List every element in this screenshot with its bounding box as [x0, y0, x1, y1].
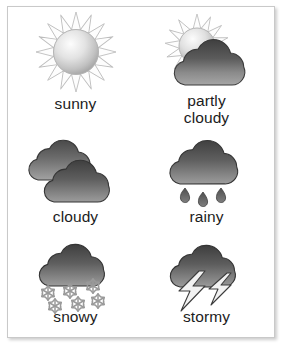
partly-cloudy-icon-stage [147, 11, 267, 93]
sun-behind-cloud-icon [152, 11, 262, 99]
cloud-snow-icon [22, 241, 130, 315]
cloudy-icon-stage [16, 136, 136, 208]
sun-disc-icon [53, 30, 98, 75]
weather-item-sunny[interactable]: sunny [10, 11, 141, 136]
double-cloud-icon [18, 136, 134, 208]
snowflake-1-icon [41, 286, 53, 300]
weather-label-sunny: sunny [55, 96, 97, 113]
snowflake-6-icon [91, 294, 103, 308]
weather-chart-card: sunny [7, 6, 275, 338]
weather-item-partly-cloudy[interactable]: partly cloudy [141, 11, 272, 136]
weather-icon-grid: sunny [8, 7, 274, 337]
cloud-rain-icon [155, 136, 259, 212]
snowflake-4-icon [48, 299, 60, 313]
weather-label-cloudy: cloudy [53, 209, 98, 226]
raindrop-3-icon [216, 188, 225, 203]
weather-item-rainy[interactable]: rainy [141, 136, 272, 241]
weather-item-stormy[interactable]: stormy [141, 241, 272, 343]
cloud-shape-icon [169, 140, 237, 184]
snowflake-5-icon [71, 297, 83, 311]
sunny-icon-stage [16, 11, 136, 93]
rainy-icon-stage [147, 136, 267, 208]
stormy-icon-stage [147, 241, 267, 309]
cloud-shape-icon [170, 245, 235, 287]
raindrop-1-icon [180, 188, 189, 203]
weather-item-cloudy[interactable]: cloudy [10, 136, 141, 241]
raindrops-icon [180, 188, 225, 207]
weather-item-snowy[interactable]: snowy [10, 241, 141, 343]
snowy-icon-stage [16, 241, 136, 309]
raindrop-2-icon [198, 192, 207, 207]
sun-icon [26, 11, 126, 93]
cloud-lightning-icon [155, 241, 259, 315]
